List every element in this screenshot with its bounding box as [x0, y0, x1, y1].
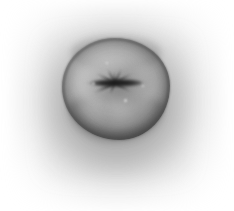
fruit [62, 38, 170, 140]
fruit-rim [62, 38, 170, 140]
fruit-photograph: Black and white photo of an apple viewed… [0, 0, 234, 211]
